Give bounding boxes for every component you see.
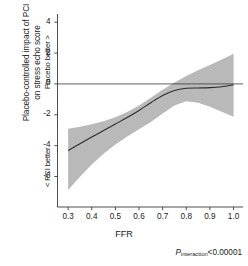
y-tick-label: -4 — [35, 140, 51, 149]
x-axis-ticks — [68, 207, 233, 210]
x-tick-label: 0.7 — [152, 212, 174, 221]
p-value-text: <0.00001 — [208, 248, 242, 257]
x-tick-label: 1.0 — [223, 212, 245, 221]
y-tick-label: -2 — [35, 109, 51, 118]
x-tick-label: 0.6 — [128, 212, 150, 221]
x-tick-label: 0.4 — [81, 212, 103, 221]
confidence-band — [68, 54, 233, 190]
x-axis-title: FFR — [0, 229, 248, 239]
x-tick-label: 0.5 — [104, 212, 126, 221]
x-tick-label: 0.8 — [175, 212, 197, 221]
figure-container: Placebo-controlled impact of PCI on stre… — [0, 0, 248, 266]
p-interaction-annotation: Pinteraction<0.00001 — [175, 248, 242, 257]
y-axis-ticks — [54, 22, 57, 176]
p-subscript: interaction — [181, 251, 208, 257]
pci-better-annotation: < PCI better — [43, 147, 52, 187]
y-tick-label: 2 — [35, 48, 51, 57]
y-tick-label: -6 — [35, 171, 51, 180]
y-tick-label: 4 — [35, 17, 51, 26]
x-tick-label: 0.3 — [57, 212, 79, 221]
x-tick-label: 0.9 — [199, 212, 221, 221]
y-tick-label: 0 — [35, 78, 51, 87]
